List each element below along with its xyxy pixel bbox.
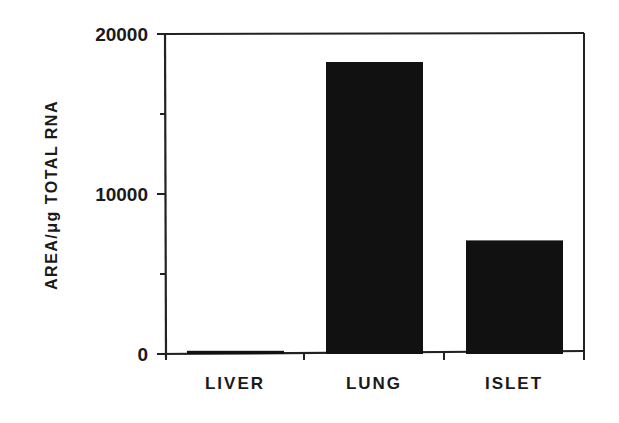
x-category-label-islet: ISLET (485, 374, 543, 393)
x-category-label-lung: LUNG (346, 374, 402, 393)
y-tick-label: 20000 (95, 24, 148, 45)
y-tick-label: 10000 (95, 184, 148, 205)
bar-liver (187, 351, 284, 354)
x-category-label-liver: LIVER (205, 374, 265, 393)
bar-lung (326, 62, 423, 354)
y-axis-label: AREA/μg TOTAL RNA (43, 100, 60, 290)
bar-islet (466, 240, 563, 354)
bars (187, 62, 563, 354)
y-tick-label: 0 (137, 344, 148, 365)
y-axis-ticks: 01000020000 (95, 24, 166, 365)
x-axis-category-labels: LIVERLUNGISLET (205, 374, 543, 393)
bar-chart: 01000020000 LIVERLUNGISLET AREA/μg TOTAL… (0, 0, 619, 423)
